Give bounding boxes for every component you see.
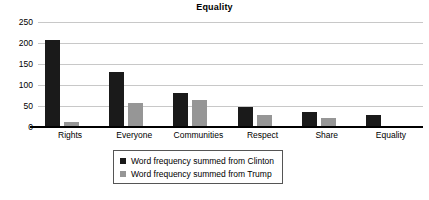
bar bbox=[302, 112, 317, 127]
bars-layer bbox=[38, 22, 423, 127]
x-tick-label: Rights bbox=[38, 129, 102, 141]
chart-title: Equality bbox=[0, 2, 429, 13]
bar-group bbox=[231, 22, 295, 127]
bar bbox=[109, 72, 124, 127]
x-axis-line bbox=[30, 126, 423, 128]
chart-legend: Word frequency summed from ClintonWord f… bbox=[113, 150, 283, 184]
y-tick-label: 50 bbox=[0, 102, 33, 111]
y-tick-label: 200 bbox=[0, 39, 33, 48]
x-axis: RightsEveryoneCommunitiesRespectShareEqu… bbox=[38, 129, 423, 143]
legend-item: Word frequency summed from Trump bbox=[120, 167, 274, 180]
legend-label: Word frequency summed from Trump bbox=[131, 169, 272, 179]
x-tick-label: Everyone bbox=[102, 129, 166, 141]
legend-item: Word frequency summed from Clinton bbox=[120, 154, 274, 167]
bar-group bbox=[359, 22, 423, 127]
y-tick-label: 150 bbox=[0, 60, 33, 69]
x-tick-label: Respect bbox=[231, 129, 295, 141]
x-tick-label: Communities bbox=[166, 129, 230, 141]
bar-group bbox=[166, 22, 230, 127]
y-tick-label: 100 bbox=[0, 81, 33, 90]
bar bbox=[192, 100, 207, 127]
legend-label: Word frequency summed from Clinton bbox=[131, 156, 274, 166]
bar bbox=[128, 103, 143, 127]
bar-chart: Equality 050100150200250 RightsEveryoneC… bbox=[0, 0, 429, 200]
bar bbox=[45, 40, 60, 127]
x-tick-label: Equality bbox=[359, 129, 423, 141]
y-tick-label: 0 bbox=[0, 123, 33, 132]
bar-group bbox=[102, 22, 166, 127]
black-square-icon bbox=[120, 158, 126, 164]
bar-group bbox=[38, 22, 102, 127]
y-tick-label: 250 bbox=[0, 18, 33, 27]
x-tick-label: Share bbox=[295, 129, 359, 141]
bar-group bbox=[295, 22, 359, 127]
y-axis: 050100150200250 bbox=[0, 22, 33, 127]
bar bbox=[173, 93, 188, 127]
bar bbox=[238, 107, 253, 127]
grey-square-icon bbox=[120, 171, 126, 177]
